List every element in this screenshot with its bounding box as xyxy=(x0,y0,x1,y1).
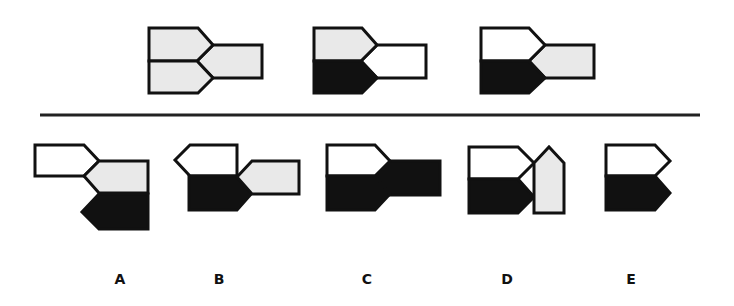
puzzle-canvas xyxy=(0,0,734,306)
light-pentagon xyxy=(237,161,299,194)
question-figure-1 xyxy=(149,28,262,93)
top-pentagon xyxy=(481,28,545,61)
white-reversed-pentagon xyxy=(175,145,237,176)
top-pentagon xyxy=(314,28,377,61)
option-e-figure[interactable] xyxy=(606,145,670,210)
black-pentagon xyxy=(327,176,390,210)
white-pentagon xyxy=(327,145,390,176)
top-pentagon xyxy=(149,28,213,61)
light-house-shape xyxy=(534,147,564,213)
bottom-pentagon xyxy=(481,61,545,93)
option-c-label[interactable]: C xyxy=(357,271,377,287)
black-pentagon xyxy=(469,179,534,213)
option-d-figure[interactable] xyxy=(469,147,564,213)
white-pentagon xyxy=(469,147,534,179)
question-figure-2 xyxy=(314,28,426,93)
option-b-figure[interactable] xyxy=(175,145,299,210)
white-pentagon xyxy=(606,145,670,176)
option-a-figure[interactable] xyxy=(35,145,148,229)
bottom-pentagon xyxy=(149,61,213,93)
bottom-pentagon xyxy=(314,61,377,93)
option-e-label[interactable]: E xyxy=(621,271,641,287)
option-c-figure[interactable] xyxy=(327,145,440,210)
question-figure-3 xyxy=(481,28,594,93)
black-pentagon xyxy=(606,176,670,210)
option-a-label[interactable]: A xyxy=(110,271,130,287)
black-reversed-pentagon xyxy=(82,194,148,229)
option-b-label[interactable]: B xyxy=(209,271,229,287)
light-pentagon xyxy=(84,161,148,193)
option-d-label[interactable]: D xyxy=(497,271,517,287)
